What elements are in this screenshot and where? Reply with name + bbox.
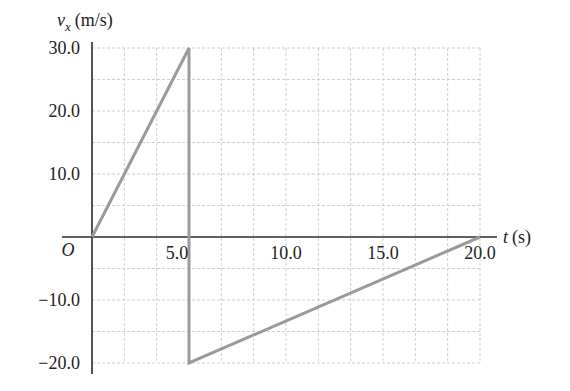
x-tick-label: 5.0 [166, 243, 189, 263]
x-axis-symbol: t [503, 227, 509, 247]
y-axis-symbol: v [57, 10, 65, 30]
y-tick-label: 10.0 [49, 164, 81, 184]
x-axis-unit: (s) [512, 227, 531, 248]
y-axis-label: vx(m/s) [57, 10, 113, 34]
y-axis-subscript: x [64, 19, 71, 34]
x-tick-label: 10.0 [270, 243, 302, 263]
y-tick-label: 30.0 [49, 38, 81, 58]
y-axis-unit: (m/s) [75, 10, 113, 31]
y-tick-label: 20.0 [49, 101, 81, 121]
y-tick-label: −20.0 [38, 353, 80, 373]
y-tick-label: −10.0 [38, 290, 80, 310]
y-tick-labels: 30.020.010.0−10.0−20.0 [38, 38, 80, 373]
origin-label: O [62, 240, 75, 260]
grid-lines [92, 48, 480, 363]
x-axis-label: t(s) [503, 227, 531, 248]
x-tick-label: 15.0 [367, 243, 399, 263]
velocity-time-chart: 30.020.010.0−10.0−20.0 5.010.015.020.0 O… [0, 0, 570, 391]
x-tick-label: 20.0 [464, 243, 496, 263]
